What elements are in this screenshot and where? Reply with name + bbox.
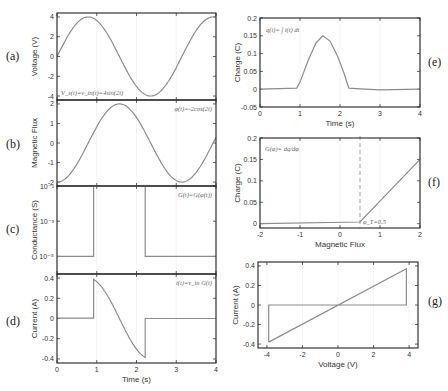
panel-f: 0.20.150.10.050-2-1012φ_T=0.5Charge (C)M… <box>233 135 440 250</box>
x-tick-label: 1 <box>378 231 382 238</box>
panel-b: 210-1-2Magnetic Fluxφ(t)=-2cos(2t)(b) <box>6 100 216 186</box>
y-axis-label: Magnetic Flux <box>30 118 39 168</box>
x-tick-label: 2 <box>418 231 422 238</box>
panel-d: 0.40.20-0.2-0.401234Current (A)Time (s)i… <box>6 274 218 384</box>
x-tick-label: -2 <box>299 351 305 358</box>
x-tick-label: -2 <box>257 231 263 238</box>
y-tick-label: -0.2 <box>243 321 255 328</box>
y-axis-label: Conductance (S) <box>30 200 39 260</box>
equation-annotation: i(t)=v_in G(t) <box>176 279 212 287</box>
x-tick-label: 1 <box>95 366 99 373</box>
panel-label-d: (d) <box>6 314 20 328</box>
equation-annotation: V_s(t)=v_in(t)=4sin(2t) <box>61 89 123 97</box>
y-tick-label: 0.1 <box>247 177 257 184</box>
x-tick-label: 2 <box>135 366 139 373</box>
x-tick-label: 0 <box>338 231 342 238</box>
y-axis-label: Current (A) <box>231 285 240 325</box>
figure-canvas: 420-2-4Voltage (V)V_s(t)=v_in(t)=4sin(2t… <box>0 0 448 391</box>
y-tick-label: 4 <box>50 13 54 20</box>
y-tick-label: 0.05 <box>243 68 257 75</box>
y-tick-label: 0.4 <box>245 262 255 269</box>
equation-annotation: G(φ)= dq/dφ <box>265 145 299 153</box>
y-tick-label: 0.4 <box>44 275 54 282</box>
y-tick-label: -0.4 <box>243 341 255 348</box>
y-tick-label: -1 <box>48 159 54 166</box>
x-tick-label: 0 <box>55 366 59 373</box>
panel-a: 420-2-4Voltage (V)V_s(t)=v_in(t)=4sin(2t… <box>6 13 216 100</box>
y-tick-label: 0 <box>50 315 54 322</box>
y-tick-label: -2 <box>48 73 54 80</box>
y-tick-label: -4 <box>48 93 54 100</box>
y-tick-label: 0.15 <box>243 156 257 163</box>
y-tick-label: 10⁻³ <box>40 218 55 225</box>
x-tick-label: 0 <box>336 351 340 358</box>
panel-c: 10⁻¹10⁻³10⁻⁵Conductance (S)G(t)=G(φ(t))(… <box>6 183 216 275</box>
y-tick-label: 0.05 <box>243 199 257 206</box>
x-axis-label: Time (s) <box>122 375 151 384</box>
data-curve <box>269 269 407 342</box>
panel-label-e: (e) <box>428 55 441 69</box>
x-tick-label: 4 <box>214 366 218 373</box>
y-tick-label: 2 <box>50 100 54 107</box>
y-axis-label: Voltage (V) <box>30 36 39 76</box>
x-tick-label: -1 <box>297 231 303 238</box>
equation-annotation: q(t)= ∫ i(t) dt <box>266 26 300 34</box>
panel-label-a: (a) <box>6 49 19 63</box>
equation-annotation: G(t)=G(φ(t)) <box>178 191 212 199</box>
y-tick-label: 0 <box>50 53 54 60</box>
y-tick-label: 0.15 <box>243 32 257 39</box>
threshold-label: φ_T=0.5 <box>363 218 387 225</box>
y-tick-label: -0.05 <box>241 104 257 111</box>
panel-g: 0.40.20-0.2-0.4-4-2024Current (A)Voltage… <box>231 262 442 369</box>
y-tick-label: 0 <box>251 302 255 309</box>
y-tick-label: -0.4 <box>42 355 54 362</box>
x-tick-label: 4 <box>407 351 411 358</box>
y-axis-label: Charge (C) <box>233 163 242 203</box>
x-tick-label: 0 <box>258 110 262 117</box>
y-tick-label: 0.1 <box>247 50 257 57</box>
x-tick-label: 2 <box>338 110 342 117</box>
y-tick-label: -0.2 <box>42 335 54 342</box>
y-tick-label: 10⁻⁵ <box>39 253 54 260</box>
y-tick-label: 0.2 <box>247 135 257 142</box>
y-tick-label: 0 <box>253 86 257 93</box>
panel-label-f: (f) <box>428 175 440 189</box>
x-tick-label: 3 <box>378 110 382 117</box>
y-tick-label: 0.2 <box>245 282 255 289</box>
x-axis-label: Voltage (V) <box>318 360 358 369</box>
y-tick-label: 0.2 <box>247 15 257 22</box>
x-tick-label: 4 <box>418 110 422 117</box>
panel-label-g: (g) <box>428 294 442 308</box>
x-tick-label: -4 <box>264 351 270 358</box>
y-axis-label: Charge (C) <box>233 42 242 82</box>
equation-annotation: φ(t)=-2cos(2t) <box>174 105 212 113</box>
panel-label-c: (c) <box>6 222 19 236</box>
panel-e: 0.20.150.10.050-0.0501234Charge (C)Time … <box>233 15 441 129</box>
y-tick-label: 1 <box>50 120 54 127</box>
y-tick-label: 0 <box>253 220 257 227</box>
x-axis-label: Time (s) <box>325 119 354 128</box>
y-tick-label: 0 <box>50 140 54 147</box>
y-tick-label: 2 <box>50 33 54 40</box>
x-tick-label: 1 <box>298 110 302 117</box>
y-axis-label: Current (A) <box>30 298 39 338</box>
y-tick-label: 10⁻¹ <box>40 183 55 190</box>
panel-label-b: (b) <box>6 137 20 151</box>
x-tick-label: 3 <box>174 366 178 373</box>
x-tick-label: 2 <box>372 351 376 358</box>
y-tick-label: 0.2 <box>44 295 54 302</box>
x-axis-label: Magnetic Flux <box>315 240 365 249</box>
